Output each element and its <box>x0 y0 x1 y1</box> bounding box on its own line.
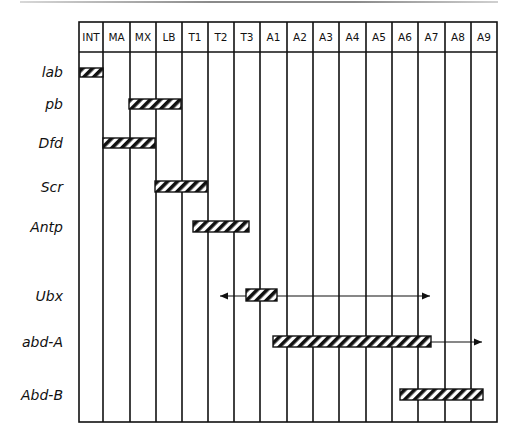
expression-bar <box>129 99 181 109</box>
gene-label: Scr <box>41 179 65 195</box>
segment-header-a9: A9 <box>477 31 491 43</box>
segment-header-a5: A5 <box>372 31 386 43</box>
gene-label: Antp <box>29 219 63 235</box>
segment-header-t3: T3 <box>239 31 253 43</box>
gene-row-abd-b: Abd-B <box>20 387 483 403</box>
gene-label: Dfd <box>38 135 63 151</box>
gene-row-lab: lab <box>42 64 103 80</box>
gene-row-abd-a: abd-A <box>22 334 482 350</box>
gene-row-antp: Antp <box>29 219 249 235</box>
segment-header-mx: MX <box>135 31 151 43</box>
segment-header-a7: A7 <box>425 31 439 43</box>
gene-expression-diagram: INTMAMXLBT1T2T3A1A2A3A4A5A6A7A8A9 labpbD… <box>0 0 524 444</box>
expression-bar <box>400 389 483 400</box>
expression-bar <box>246 289 277 301</box>
expression-bar <box>155 181 207 192</box>
gene-row-dfd: Dfd <box>38 135 155 151</box>
arrow-left-icon <box>220 293 228 300</box>
segment-header-a8: A8 <box>451 31 465 43</box>
segment-header-a4: A4 <box>346 31 360 43</box>
table-border <box>79 22 497 422</box>
gene-row-pb: pb <box>44 96 181 112</box>
gene-rows: labpbDfdScrAntpUbxabd-AAbd-B <box>20 64 483 403</box>
segment-header-a6: A6 <box>398 31 412 43</box>
gene-label: lab <box>42 64 63 80</box>
arrow-right-icon <box>422 293 430 300</box>
gene-row-scr: Scr <box>41 179 207 195</box>
expression-bar <box>103 138 155 148</box>
segment-header-a3: A3 <box>319 31 333 43</box>
gene-row-ubx: Ubx <box>36 288 430 304</box>
segment-header-lb: LB <box>162 31 175 43</box>
expression-bar <box>273 336 431 347</box>
gene-label: Ubx <box>36 288 64 304</box>
gene-label: Abd-B <box>20 387 63 403</box>
expression-bar <box>80 68 103 77</box>
segment-header-t1: T1 <box>187 31 201 43</box>
arrow-right-icon <box>474 339 482 346</box>
segment-header-t2: T2 <box>213 31 227 43</box>
segment-grid <box>79 22 497 422</box>
segment-header-a1: A1 <box>267 31 281 43</box>
segment-header-a2: A2 <box>293 31 307 43</box>
segment-header-int: INT <box>82 31 100 43</box>
segment-header-ma: MA <box>108 31 125 43</box>
gene-label: pb <box>44 96 63 112</box>
expression-bar <box>193 221 249 232</box>
gene-label: abd-A <box>22 334 63 350</box>
